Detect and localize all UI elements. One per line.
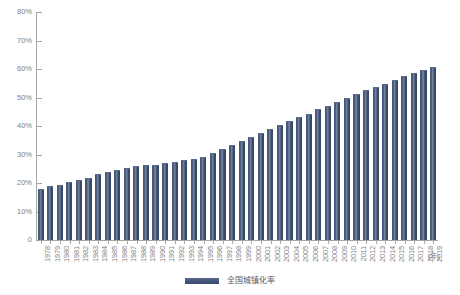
x-axis-tick-label: 1989 <box>149 246 157 262</box>
x-axis-tick-label: 1991 <box>168 246 176 262</box>
bar[interactable] <box>105 172 111 240</box>
x-axis-tick-label: 1997 <box>226 246 234 262</box>
bar-slot <box>208 12 218 240</box>
x-axis-tick-label: 1986 <box>121 246 129 262</box>
x-axis-tick <box>79 240 80 244</box>
bar-slot <box>84 12 94 240</box>
bar-slot <box>419 12 429 240</box>
bar[interactable] <box>363 90 369 240</box>
bar-slot <box>227 12 237 240</box>
bar[interactable] <box>334 102 340 240</box>
bar-slot <box>285 12 295 240</box>
x-axis-tick-label: 1982 <box>82 246 90 262</box>
bar[interactable] <box>210 153 216 240</box>
bar[interactable] <box>258 133 264 240</box>
x-axis-tick <box>223 240 224 244</box>
x-axis-tick <box>98 240 99 244</box>
urbanization-rate-bar-chart: 80%70%60%50%40%30%20%10% 0 1978197919801… <box>0 0 460 295</box>
x-axis-tick-label: 2008 <box>331 246 339 262</box>
bar[interactable] <box>344 98 350 240</box>
bar[interactable] <box>277 125 283 240</box>
bar[interactable] <box>373 87 379 240</box>
x-axis-tick <box>357 240 358 244</box>
bar[interactable] <box>124 168 130 240</box>
legend-label-urbanization-rate: 全国城镇化率 <box>227 276 275 286</box>
x-axis-tick-label: 1992 <box>178 246 186 262</box>
x-axis-tick-label: 2001 <box>264 246 272 262</box>
bar[interactable] <box>85 178 91 240</box>
bar[interactable] <box>114 170 120 240</box>
bar[interactable] <box>172 162 178 240</box>
bar-slot <box>103 12 113 240</box>
bar[interactable] <box>76 180 82 240</box>
x-axis-tick-label: 1996 <box>216 246 224 262</box>
bar-slot <box>275 12 285 240</box>
x-axis-tick <box>433 240 434 244</box>
y-axis-labels: 80%70%60%50%40%30%20%10% <box>0 0 32 295</box>
x-axis-tick <box>156 240 157 244</box>
x-axis-tick <box>41 240 42 244</box>
bar[interactable] <box>57 185 63 240</box>
bar[interactable] <box>286 121 292 240</box>
bar[interactable] <box>66 182 72 240</box>
bar[interactable] <box>353 94 359 240</box>
x-axis-tick <box>137 240 138 244</box>
bar[interactable] <box>95 174 101 240</box>
bar-slot <box>160 12 170 240</box>
bar[interactable] <box>38 189 44 240</box>
x-axis-tick <box>328 240 329 244</box>
x-axis-tick-label: 1981 <box>73 246 81 262</box>
x-axis-tick-label: 2015 <box>398 246 406 262</box>
bar[interactable] <box>219 149 225 240</box>
x-axis-tick-label: 2000 <box>255 246 263 262</box>
bar-slot <box>122 12 132 240</box>
bar[interactable] <box>152 165 158 240</box>
bar[interactable] <box>392 80 398 240</box>
bar[interactable] <box>191 159 197 240</box>
bar-slot <box>409 12 419 240</box>
bar-slot <box>170 12 180 240</box>
chart-legend: 全国城镇化率 <box>0 276 460 286</box>
bar[interactable] <box>401 76 407 240</box>
bar[interactable] <box>248 137 254 240</box>
bar[interactable] <box>133 166 139 240</box>
bar[interactable] <box>420 70 426 240</box>
bar-slot <box>151 12 161 240</box>
x-axis-tick <box>414 240 415 244</box>
x-axis-tick <box>385 240 386 244</box>
x-axis-tick-label: 2006 <box>312 246 320 262</box>
x-axis-tick-label: 2003 <box>283 246 291 262</box>
bar[interactable] <box>267 129 273 240</box>
bar[interactable] <box>239 141 245 240</box>
x-axis-tick <box>60 240 61 244</box>
y-axis-tick-label: 60% <box>4 65 32 73</box>
bar[interactable] <box>315 109 321 240</box>
x-axis-tick-label: 2011 <box>360 246 368 261</box>
bar-slot <box>381 12 391 240</box>
x-axis-tick <box>309 240 310 244</box>
bar[interactable] <box>143 165 149 240</box>
x-axis-tick-label: 1980 <box>63 246 71 262</box>
x-axis-tick-label: 1987 <box>130 246 138 262</box>
bar-slot <box>36 12 46 240</box>
y-axis-tick-label: 10% <box>4 208 32 216</box>
x-axis-tick <box>290 240 291 244</box>
bar[interactable] <box>411 73 417 240</box>
bar[interactable] <box>200 157 206 240</box>
bar-slot <box>390 12 400 240</box>
x-axis-tick <box>405 240 406 244</box>
y-axis-tick-label: 70% <box>4 37 32 45</box>
bar[interactable] <box>229 145 235 240</box>
bar[interactable] <box>325 106 331 240</box>
bar[interactable] <box>306 114 312 240</box>
bar-slot <box>256 12 266 240</box>
bar-slot <box>361 12 371 240</box>
bar[interactable] <box>181 160 187 240</box>
bar[interactable] <box>162 163 168 240</box>
x-axis-tick <box>194 240 195 244</box>
x-axis-tick <box>299 240 300 244</box>
bar[interactable] <box>296 117 302 240</box>
bar[interactable] <box>430 67 436 240</box>
bar[interactable] <box>382 84 388 240</box>
bar[interactable] <box>47 186 53 240</box>
